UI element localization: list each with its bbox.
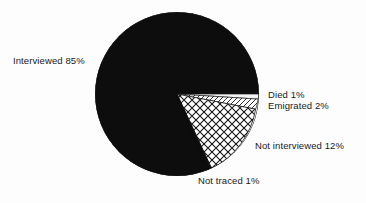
pie-label-not-traced: Not traced 1% — [198, 175, 260, 187]
pie-label-not-interviewed: Not interviewed 12% — [255, 140, 344, 152]
pie-slices — [95, 12, 259, 176]
pie-label-emigrated: Emigrated 2% — [268, 100, 329, 112]
pie-label-interviewed: Interviewed 85% — [13, 55, 85, 67]
pie-chart-figure: Interviewed 85% Died 1% Emigrated 2% Not… — [0, 0, 366, 203]
